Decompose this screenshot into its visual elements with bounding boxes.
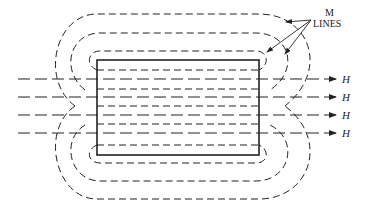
h-label: H [341,91,351,103]
m-lines-pointers [267,20,311,54]
h-label: H [341,109,351,121]
h-label: H [341,127,351,139]
diagram-canvas: H H H H M LINES [0,0,368,211]
m-lines-lower [55,106,310,199]
internal-lines [97,70,259,145]
m-h-field-diagram: H H H H M LINES [0,0,368,211]
m-lines-label-top: M [325,7,334,18]
h-label: H [341,73,351,85]
m-lines-label-bottom: LINES [313,18,341,29]
magnet-bar [97,60,259,155]
